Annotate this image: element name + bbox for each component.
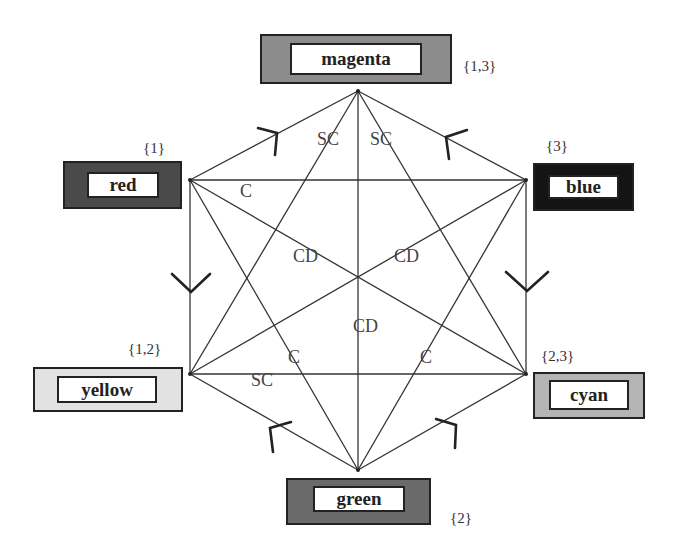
- edge-label-c-lower-right: C: [420, 347, 432, 368]
- direction-arrows: [172, 128, 548, 452]
- arrow-blue-to-magenta-icon: [446, 130, 467, 159]
- arrow-red-to-magenta-icon: [258, 128, 277, 155]
- arrow-blue-to-cyan-icon: [506, 272, 548, 291]
- graph-edges: [190, 91, 526, 470]
- node-red: red: [63, 161, 182, 209]
- node-red-label: red: [87, 172, 159, 198]
- node-blue-label: blue: [548, 175, 619, 199]
- edge-label-sc-bottom: SC: [251, 370, 273, 391]
- arrow-green-to-yellow-icon: [270, 422, 291, 452]
- edge-label-cd-center: CD: [353, 316, 378, 337]
- edge-label-sc-right: SC: [370, 129, 392, 150]
- set-label-blue: {3}: [546, 138, 568, 155]
- edge-yellow-green: [190, 374, 358, 470]
- set-label-magenta: {1,3}: [463, 58, 496, 75]
- edge-label-c-top: C: [240, 181, 252, 202]
- node-magenta: magenta: [260, 34, 452, 84]
- set-label-yellow: {1,2}: [128, 341, 161, 358]
- edge-label-sc-left: SC: [317, 129, 339, 150]
- node-magenta-label: magenta: [290, 43, 422, 75]
- set-label-red: {1}: [143, 140, 165, 157]
- node-green-label: green: [313, 486, 405, 512]
- node-yellow-label: yellow: [57, 376, 157, 403]
- arrow-red-to-yellow-icon: [172, 274, 210, 292]
- node-cyan-label: cyan: [549, 380, 629, 410]
- set-label-green: {2}: [450, 510, 472, 527]
- node-blue: blue: [533, 163, 634, 211]
- set-label-cyan: {2,3}: [541, 348, 574, 365]
- node-yellow: yellow: [33, 367, 183, 412]
- edge-label-cd-right: CD: [394, 246, 419, 267]
- node-cyan: cyan: [533, 372, 645, 419]
- edge-label-c-lower-left: C: [288, 347, 300, 368]
- node-green: green: [286, 478, 431, 525]
- edge-label-cd-left: CD: [293, 246, 318, 267]
